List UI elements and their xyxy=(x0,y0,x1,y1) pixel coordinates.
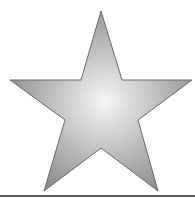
baseline-divider xyxy=(0,195,195,197)
star-graphic xyxy=(0,0,195,199)
star-icon xyxy=(0,0,195,199)
